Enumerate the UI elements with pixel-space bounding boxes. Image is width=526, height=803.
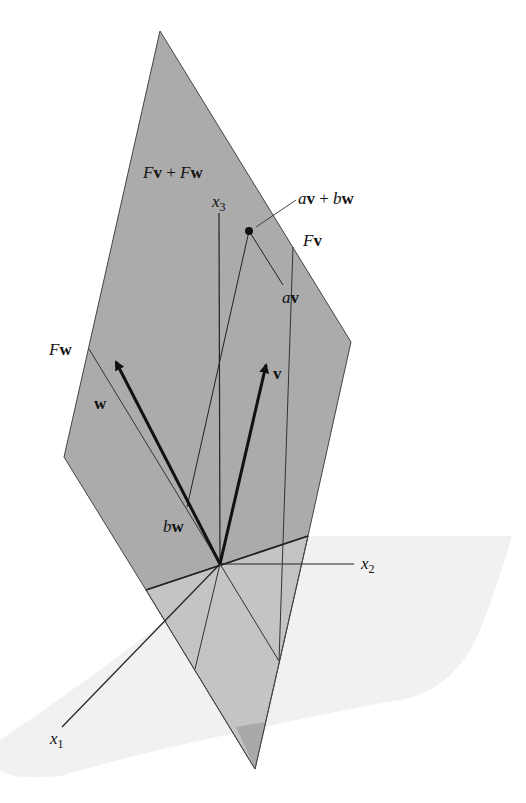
fw-label: Fw [48,340,72,359]
vector-space-diagram: Fv + Fw av + bw Fv Fw av bw v w x3 x2 x1 [0,0,526,803]
v-label: v [273,364,282,383]
combo-point [245,227,253,235]
diagram-canvas: Fv + Fw av + bw Fv Fw av bw v w x3 x2 x1 [0,0,526,803]
span-plane-upper [64,31,351,590]
w-label: w [94,394,107,413]
bw-label: bw [163,517,185,536]
fv-label: Fv [302,231,322,250]
span-label: Fv + Fw [142,163,203,182]
av-label: av [282,288,300,307]
combo-label: av + bw [298,189,355,208]
